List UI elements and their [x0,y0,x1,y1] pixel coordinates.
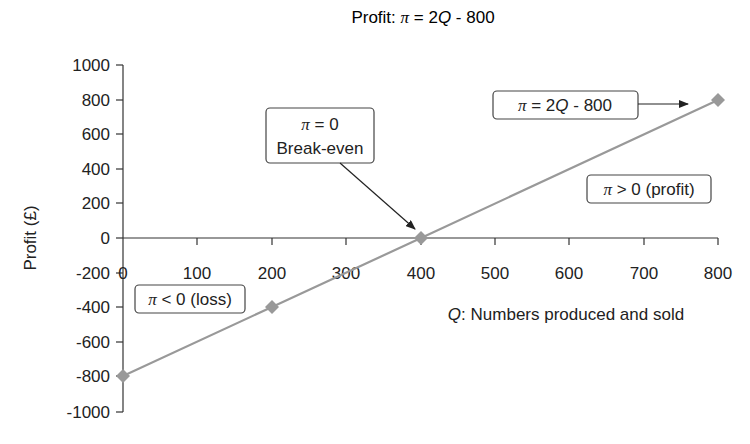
x-tick-label: 0 [118,264,127,283]
y-tick-label: -1000 [67,403,110,422]
x-tick-label: 700 [630,264,658,283]
diamond-marker-icon [265,300,279,314]
annotation-formula: π = 2Q - 800 [493,91,688,119]
y-tick-label: 800 [82,91,110,110]
x-tick-label: 500 [481,264,509,283]
profit-chart: Profit: π = 2Q - 800 1000 800 600 400 20… [0,0,750,444]
diamond-marker-icon [414,231,428,245]
y-tick-labels: 1000 800 600 400 200 0 -200 -400 -600 -8… [67,56,110,422]
y-tick-label: -200 [76,264,110,283]
svg-text:π < 0 (loss): π < 0 (loss) [148,290,232,309]
y-tick-label: -800 [76,367,110,386]
y-tick-label: -400 [76,298,110,317]
x-ticks [197,238,718,245]
svg-text:π = 0: π = 0 [301,115,338,134]
y-axis-label: Profit (£) [21,205,40,270]
y-tick-label: 0 [101,229,110,248]
arrow-icon [340,163,415,229]
x-tick-label: 100 [183,264,211,283]
x-tick-label: 600 [555,264,583,283]
svg-text:Break-even: Break-even [277,139,364,158]
y-tick-label: 1000 [72,56,110,75]
y-ticks [116,65,123,412]
y-tick-label: 600 [82,125,110,144]
svg-text:π > 0 (profit): π > 0 (profit) [603,180,694,199]
y-tick-label: 200 [82,194,110,213]
annotation-breakeven: π = 0 Break-even [266,108,415,229]
diamond-marker-icon [116,369,130,383]
svg-text:π = 2Q - 800: π = 2Q - 800 [518,96,612,115]
x-tick-label: 800 [704,264,732,283]
annotation-profit: π > 0 (profit) [587,175,711,203]
annotation-loss: π < 0 (loss) [135,285,245,313]
y-tick-label: -600 [76,333,110,352]
x-axis-label: Q: Numbers produced and sold [448,305,684,324]
x-tick-label: 400 [407,264,435,283]
chart-title: Profit: π = 2Q - 800 [351,8,494,27]
x-tick-label: 200 [258,264,286,283]
y-tick-label: 400 [82,160,110,179]
x-tick-labels: 0 100 200 300 400 500 600 700 800 [118,264,732,283]
diamond-marker-icon [711,93,725,107]
